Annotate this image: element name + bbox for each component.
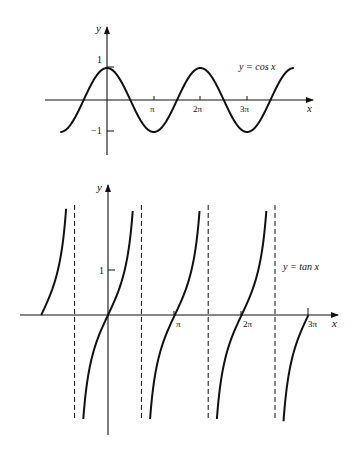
tan-tick-label-1: 1 (99, 265, 104, 276)
tan-branch (284, 315, 309, 421)
cos-tick-label-pi: π (150, 104, 155, 114)
cos-graph: y x 1 −1 π 2π 3π y = cos x (45, 22, 313, 155)
tan-graph: y x 1 π 2π 3π y = tan x (20, 181, 338, 435)
cos-tick-label-3pi: 3π (240, 104, 250, 114)
cos-curve-label: y = cos x (238, 61, 276, 72)
tan-tick-label-3pi: 3π (308, 319, 318, 329)
tan-tick-label-pi: π (176, 319, 181, 329)
cos-y-label: y (95, 22, 101, 34)
cos-x-label: x (306, 102, 312, 114)
tan-y-label: y (96, 181, 102, 193)
cos-tick-label-1: 1 (97, 54, 102, 65)
tan-x-label: x (331, 317, 337, 329)
tan-branch (41, 209, 66, 315)
cos-tick-label-neg1: −1 (91, 125, 102, 136)
tan-tick-label-2pi: 2π (243, 319, 253, 329)
cos-tick-label-2pi: 2π (193, 104, 203, 114)
trig-graphs-figure: y x 1 −1 π 2π 3π y = cos x y x 1 π 2π 3π… (0, 0, 355, 452)
tan-curve-label: y = tan x (282, 261, 319, 272)
